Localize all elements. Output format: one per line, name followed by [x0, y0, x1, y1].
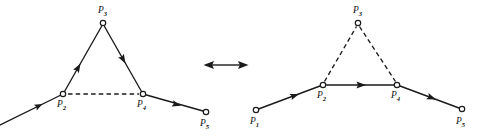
arrow-head	[426, 93, 437, 102]
arrow-head	[118, 54, 128, 65]
arrow-head	[73, 62, 83, 73]
edge-line	[0, 94, 63, 128]
edge-p4-p5-right	[400, 86, 459, 108]
node-label-p2-left: P2	[56, 99, 67, 111]
path-transformation-diagram: P2 P3 P4 P5	[0, 0, 492, 136]
arrow-head	[34, 101, 44, 110]
edge-p2-p3-left	[65, 27, 102, 92]
edge-p3-p4-right-dashed	[360, 27, 396, 82]
edge-p4-p5-left	[147, 95, 204, 111]
right-configuration: P1 P2 P3 P4 P5	[249, 5, 466, 128]
node-p3-right[interactable]	[355, 20, 360, 25]
node-label-p4-left: P4	[136, 99, 147, 111]
edge-line	[259, 86, 321, 109]
node-p5-right[interactable]	[459, 106, 464, 111]
node-p2-right[interactable]	[320, 82, 325, 87]
left-configuration: P2 P3 P4 P5	[0, 5, 210, 130]
edge-p1-p2-right	[259, 86, 321, 109]
node-p2-left[interactable]	[60, 91, 65, 96]
figure-container: P2 P3 P4 P5	[0, 0, 492, 136]
edge-line	[65, 27, 102, 92]
node-label-p3-right: P3	[352, 5, 363, 17]
arrow-head	[289, 91, 300, 100]
node-label-p1-right: P1	[249, 116, 259, 128]
node-p4-left[interactable]	[140, 91, 145, 96]
node-p4-right[interactable]	[394, 82, 399, 87]
node-p1-right[interactable]	[253, 107, 258, 112]
edge-p3-p4-left	[105, 27, 142, 92]
node-p3-left[interactable]	[100, 20, 105, 25]
node-label-p4-right: P4	[390, 90, 401, 102]
node-p5-left[interactable]	[203, 109, 208, 114]
edge-p1-p2-left	[0, 94, 63, 128]
equivalence-arrow	[204, 61, 249, 69]
edge-p2-p3-right-dashed	[325, 27, 357, 82]
node-label-p3-left: P3	[97, 5, 108, 17]
node-label-p5-left: P5	[199, 118, 210, 130]
node-label-p5-right: P5	[455, 116, 466, 128]
edge-p2-p4-right	[327, 82, 395, 89]
node-label-p2-right: P2	[316, 90, 327, 102]
